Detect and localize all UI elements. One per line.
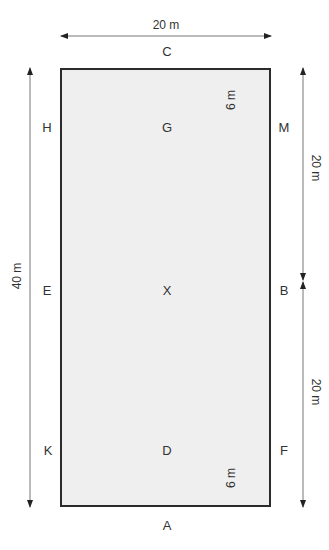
marker-f: F xyxy=(280,443,288,458)
length-label: 40 m xyxy=(10,263,24,290)
marker-m: M xyxy=(279,120,290,135)
marker-x: X xyxy=(163,283,172,298)
top-offset-label: 6 m xyxy=(224,90,238,110)
marker-c: C xyxy=(162,44,171,59)
marker-b: B xyxy=(280,283,289,298)
marker-d: D xyxy=(162,443,171,458)
lower-half-label: 20 m xyxy=(309,379,323,406)
upper-half-label: 20 m xyxy=(309,155,323,182)
marker-k: K xyxy=(44,443,53,458)
bottom-offset-label: 6 m xyxy=(224,468,238,488)
width-label: 20 m xyxy=(153,18,180,32)
marker-g: G xyxy=(162,120,172,135)
marker-e: E xyxy=(43,283,52,298)
marker-h: H xyxy=(42,120,51,135)
marker-a: A xyxy=(163,518,172,533)
